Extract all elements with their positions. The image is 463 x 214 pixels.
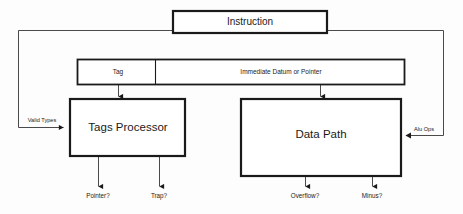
box-tags-processor-label: Tags Processor — [88, 122, 167, 134]
box-instruction-label: Instruction — [227, 17, 273, 27]
output-label-trap: Trap? — [151, 193, 167, 199]
output-label-overflow: Overflow? — [291, 193, 319, 199]
box-tag-label: Tag — [113, 69, 123, 76]
output-label-minus: Minus? — [362, 193, 382, 199]
diagram-vector-layer — [0, 0, 463, 214]
box-immediate-label: Immediate Datum or Pointer — [240, 69, 321, 76]
wire-alu-ops-arrowhead — [405, 133, 411, 139]
diagram-boxes — [70, 11, 405, 176]
diagram-canvas: Instruction Tag Immediate Datum or Point… — [0, 0, 463, 214]
box-data-path-label: Data Path — [295, 129, 346, 141]
edge-label-alu-ops: Alu Ops — [414, 127, 434, 133]
output-label-pointer: Pointer? — [86, 193, 109, 199]
edge-label-valid-types: Valid Types — [28, 118, 56, 124]
